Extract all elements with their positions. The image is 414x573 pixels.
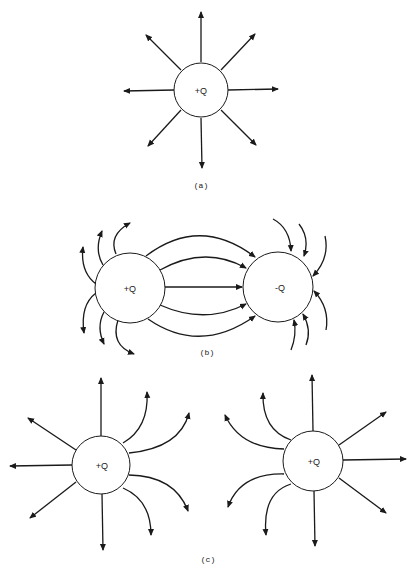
electric-field-diagram: +Q (a) +Q -Q (b [0,0,414,573]
panel-c: +Q +Q (c) [10,375,406,564]
caption-c: (c) [201,555,215,564]
charge-label: -Q [275,283,285,293]
caption-b: (b) [200,348,214,357]
charge-label: +Q [308,457,320,467]
charge-label: +Q [124,284,136,294]
caption-a: (a) [194,181,208,190]
charge-label: +Q [96,461,108,471]
panel-b: +Q -Q (b) [83,219,327,357]
panel-a: +Q (a) [124,12,278,190]
charge-label: +Q [195,86,207,96]
